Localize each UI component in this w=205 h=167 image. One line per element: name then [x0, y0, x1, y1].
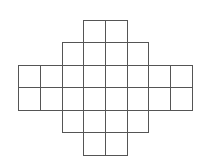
grid-cell: [84, 88, 106, 111]
grid-cell: [63, 43, 84, 66]
grid-cell: [84, 21, 106, 43]
grid-cell: [106, 133, 128, 156]
grid-cell: [106, 21, 128, 43]
grid-cell: [149, 66, 171, 88]
grid-cell: [84, 111, 106, 133]
grid-cell: [84, 43, 106, 66]
grid-cell: [84, 133, 106, 156]
grid-cell: [106, 111, 128, 133]
grid-cell: [128, 88, 149, 111]
cross-grid-diagram: [0, 0, 205, 167]
grid-cell: [128, 111, 149, 133]
grid-cell: [106, 66, 128, 88]
grid-cell: [84, 66, 106, 88]
grid-cell: [149, 88, 171, 111]
grid-cell: [63, 88, 84, 111]
grid-cell: [171, 66, 193, 88]
grid-cell: [63, 66, 84, 88]
grid-cell: [171, 88, 193, 111]
grid-cell: [41, 88, 63, 111]
grid-cell: [128, 66, 149, 88]
grid-cell: [106, 43, 128, 66]
grid-cell: [63, 111, 84, 133]
grid-cell: [128, 43, 149, 66]
grid-cell: [19, 66, 41, 88]
grid-cell: [41, 66, 63, 88]
grid-cell: [19, 88, 41, 111]
grid-cell: [106, 88, 128, 111]
